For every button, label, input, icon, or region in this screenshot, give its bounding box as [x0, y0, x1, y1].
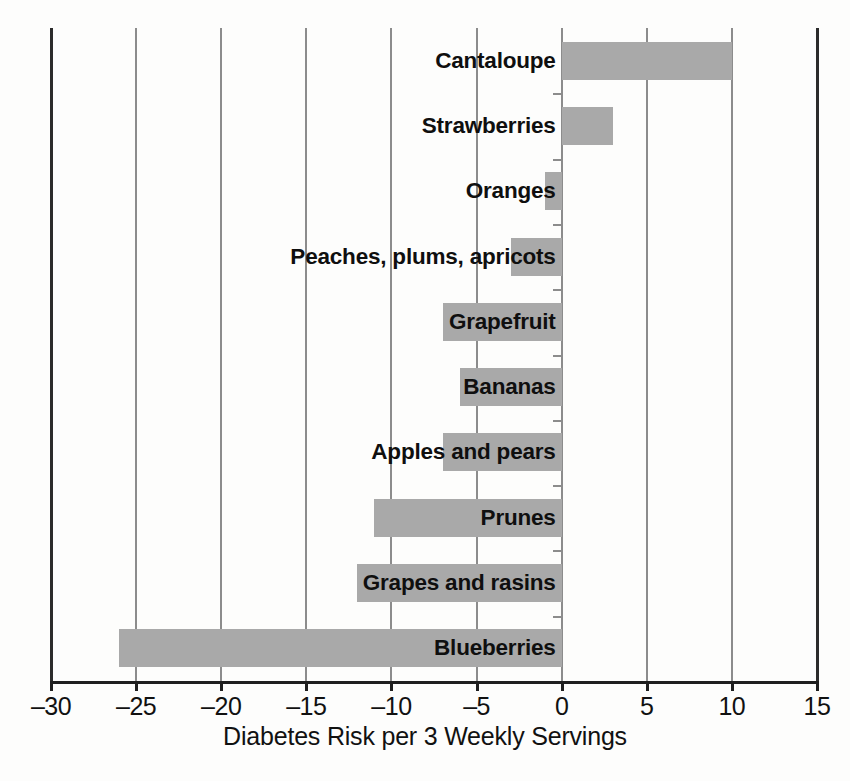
minor-tick — [553, 224, 562, 226]
bar — [562, 42, 732, 80]
x-tick-10 — [731, 681, 734, 691]
gridline-15 — [816, 28, 819, 681]
x-tick-label-15: 15 — [804, 692, 831, 721]
bar-category-label: Oranges — [0, 172, 556, 210]
bar-category-label: Cantaloupe — [0, 42, 556, 80]
gridline-10 — [731, 28, 733, 681]
x-tick-label-10: 10 — [718, 692, 745, 721]
x-tick-label--10: –10 — [371, 692, 411, 721]
x-tick--10 — [390, 681, 393, 691]
bar-category-label: Blueberries — [0, 629, 556, 667]
minor-tick — [553, 159, 562, 161]
bar-category-label: Prunes — [0, 499, 556, 537]
x-tick-15 — [816, 681, 819, 691]
x-tick--20 — [220, 681, 223, 691]
x-tick-5 — [646, 681, 649, 691]
x-tick--15 — [305, 681, 308, 691]
bar-category-label: Peaches, plums, apricots — [0, 238, 556, 276]
minor-tick — [553, 616, 562, 618]
bar-category-label: Apples and pears — [0, 433, 556, 471]
minor-tick — [553, 355, 562, 357]
x-tick-label-5: 5 — [640, 692, 653, 721]
bar-chart: –30–25–20–15–10–5051015 CantaloupeStrawb… — [0, 0, 850, 781]
x-tick-label--30: –30 — [31, 692, 71, 721]
x-tick--5 — [476, 681, 479, 691]
minor-tick — [553, 93, 562, 95]
bar-category-label: Grapes and rasins — [0, 564, 556, 602]
x-tick-0 — [561, 681, 564, 691]
gridline-5 — [646, 28, 648, 681]
minor-tick — [553, 550, 562, 552]
x-tick--30 — [50, 681, 53, 691]
bar-category-label: Strawberries — [0, 107, 556, 145]
x-tick-label--25: –25 — [116, 692, 156, 721]
x-tick-label--5: –5 — [463, 692, 490, 721]
minor-tick — [553, 485, 562, 487]
x-tick-label-0: 0 — [555, 692, 568, 721]
x-tick-label--20: –20 — [201, 692, 241, 721]
x-axis-line — [51, 681, 819, 684]
x-axis-label: Diabetes Risk per 3 Weekly Servings — [0, 722, 850, 751]
bar — [562, 107, 613, 145]
x-tick-label--15: –15 — [286, 692, 326, 721]
bar-category-label: Bananas — [0, 368, 556, 406]
minor-tick — [553, 289, 562, 291]
minor-tick — [553, 420, 562, 422]
bar-category-label: Grapefruit — [0, 303, 556, 341]
x-tick--25 — [135, 681, 138, 691]
